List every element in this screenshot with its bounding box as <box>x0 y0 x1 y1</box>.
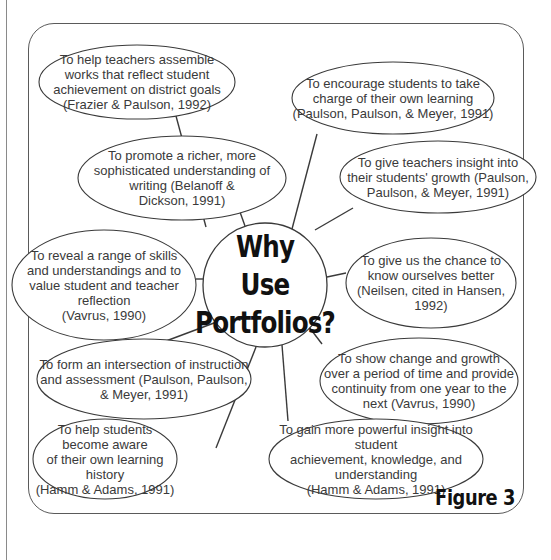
node-text-teacher-insight: To give teachers insight into their stud… <box>340 141 536 213</box>
node-text-show-change: To show change and growth over a period … <box>320 338 518 424</box>
center-title-line1: Why Use <box>214 228 316 304</box>
connector-take-charge <box>292 134 317 229</box>
connector-know-ourselves <box>327 273 346 277</box>
figure-label: Figure 3 <box>435 486 515 510</box>
connector-powerful-insight <box>282 345 288 421</box>
center-title: Why Use Portfolios? <box>214 223 316 347</box>
node-text-intersection: To form an intersection of instruction a… <box>37 339 251 419</box>
node-text-know-ourselves: To give us the chance to know ourselves … <box>346 238 516 328</box>
node-text-assemble-works: To help teachers assemble works that ref… <box>39 45 235 119</box>
node-text-take-charge: To encourage students to take charge of … <box>292 62 494 134</box>
node-text-richer-understanding: To promote a richer, more sophisticated … <box>78 136 286 220</box>
center-title-line2: Portfolios? <box>195 304 335 342</box>
node-text-learning-history: To help students become aware of their o… <box>33 419 177 499</box>
node-text-reveal-skills: To reveal a range of skills and understa… <box>12 230 196 340</box>
